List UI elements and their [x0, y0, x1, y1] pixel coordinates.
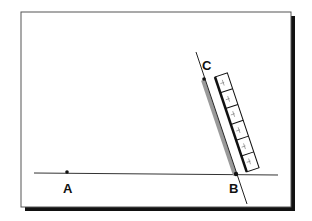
point-A-marker	[65, 170, 69, 174]
point-B-label: B	[229, 181, 238, 196]
diagram-canvas: A B C	[0, 0, 312, 221]
point-B-marker	[234, 172, 238, 176]
point-C-marker	[202, 77, 206, 81]
frame	[21, 12, 291, 207]
point-C-label: C	[202, 58, 212, 73]
point-A-label: A	[63, 181, 73, 196]
